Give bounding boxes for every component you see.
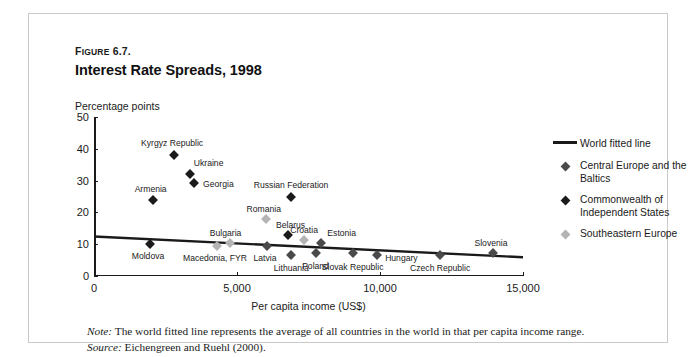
y-tick-label: 0 <box>83 270 89 282</box>
data-point-label: Ukraine <box>194 159 224 168</box>
source-label: Source: <box>87 341 122 353</box>
data-point-label: Kyrgyz Republic <box>141 139 203 148</box>
legend-diamond-icon <box>552 194 578 204</box>
data-point-label: Slovenia <box>474 239 507 248</box>
figure-title: Interest Rate Spreads, 1998 <box>75 62 262 78</box>
data-point-label: Latvia <box>254 254 277 263</box>
legend-item-label: Central Europe and the Baltics <box>578 160 691 185</box>
figure-container: FIGURE 6.7. Interest Rate Spreads, 1998 … <box>28 13 668 343</box>
data-point-label: Moldova <box>132 252 164 261</box>
figure-number-value: 6.7. <box>110 45 131 57</box>
x-tick-label: 15,000 <box>506 282 540 294</box>
y-tick-label: 10 <box>77 238 89 250</box>
x-tick-label: 0 <box>91 282 97 294</box>
data-point-label: Slovak Republic <box>322 263 384 272</box>
note-label: Note: <box>87 325 112 337</box>
legend-item-label: Commonwealth of Independent States <box>578 194 691 219</box>
figure-number-smallcaps: IGURE <box>82 47 110 57</box>
note-text: The world fitted line represents the ave… <box>112 325 584 337</box>
data-point-label: Bulgaria <box>210 229 242 238</box>
figure-number-text: F <box>75 45 82 57</box>
x-tick-label: 5,000 <box>223 282 251 294</box>
legend-diamond-icon <box>552 160 578 170</box>
data-point-label: Russian Federation <box>254 181 329 190</box>
data-point-label: Croatia <box>290 226 318 235</box>
data-point-label: Macedonia, FYR <box>183 254 247 263</box>
data-point-label: Czech Republic <box>410 264 470 273</box>
data-point-label: Romania <box>247 205 281 214</box>
y-tick-label: 50 <box>77 111 89 123</box>
plot-area: 01020304050 05,00010,00015,000 Kyrgyz Re… <box>94 117 523 276</box>
source-line: Source: Eichengreen and Ruehl (2000). <box>87 339 687 355</box>
legend-item-label: Southeastern Europe <box>578 228 677 241</box>
source-text: Eichengreen and Ruehl (2000). <box>122 341 266 353</box>
data-point-label: Hungary <box>385 254 417 263</box>
legend-item-southeastern-europe[interactable]: Southeastern Europe <box>552 228 691 241</box>
legend-item-commonwealth-of-independent-states[interactable]: Commonwealth of Independent States <box>552 194 691 219</box>
legend-item-world-fitted-line[interactable]: World fitted line <box>552 138 691 151</box>
y-tick-mark <box>94 276 98 277</box>
legend-item-central-europe-and-the-baltics[interactable]: Central Europe and the Baltics <box>552 160 691 185</box>
figure-notes: Note: The world fitted line represents t… <box>87 323 687 355</box>
legend-line-icon <box>552 138 578 144</box>
y-tick-label: 20 <box>77 206 89 218</box>
y-tick-label: 30 <box>77 175 89 187</box>
legend-diamond-icon <box>552 228 578 238</box>
legend-item-label: World fitted line <box>578 138 651 151</box>
note-line: Note: The world fitted line represents t… <box>87 323 687 339</box>
data-point-label: Armenia <box>135 185 167 194</box>
figure-number: FIGURE 6.7. <box>75 45 131 57</box>
chart-legend: World fitted lineCentral Europe and the … <box>552 138 691 250</box>
y-tick-label: 40 <box>77 143 89 155</box>
x-tick-label: 10,000 <box>363 282 397 294</box>
x-tick-mark <box>523 272 524 276</box>
data-point-label: Estonia <box>327 229 356 238</box>
data-point-label: Georgia <box>203 180 234 189</box>
x-axis-title: Per capita income (US$) <box>94 300 523 312</box>
